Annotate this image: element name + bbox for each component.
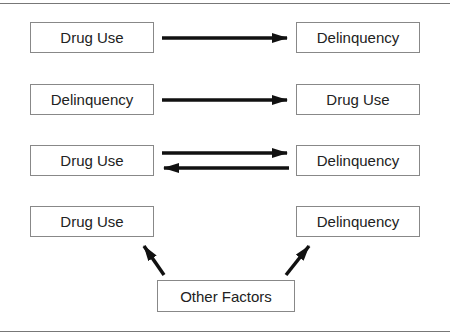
other-factors-to-right-arrow-icon [286,246,309,275]
other-factors-to-left-arrow-icon [144,246,164,275]
arrows-layer [0,0,450,336]
